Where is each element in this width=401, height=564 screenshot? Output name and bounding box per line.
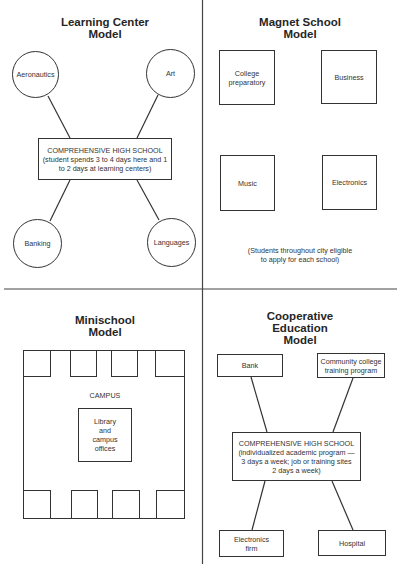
minischool-unit <box>71 490 98 519</box>
campus-label: CAMPUS <box>80 391 130 400</box>
minischool-unit <box>70 350 97 377</box>
library-campus-offices: Library and campus offices <box>78 408 132 462</box>
connector-languages <box>137 180 159 220</box>
magnet-eligibility-note: (Students throughout city eligible to ap… <box>235 246 365 264</box>
school-music: Music <box>220 155 275 211</box>
site-bank: Bank <box>217 354 283 377</box>
school-college-preparatory: College preparatory <box>219 50 275 105</box>
magnet-school-title: Magnet School Model <box>240 16 360 40</box>
school-models-diagram: Learning Center Model Aeronautics Art CO… <box>0 0 401 564</box>
minischool-unit <box>156 490 185 519</box>
hub-comprehensive-high-school-coop: COMPREHENSIVE HIGH SCHOOL (individualize… <box>232 432 361 481</box>
site-community-college: Community college training program <box>317 353 385 378</box>
connector-bank <box>251 377 267 432</box>
minischool-unit <box>23 350 51 377</box>
center-languages: Languages <box>147 218 196 267</box>
school-electronics: Electronics <box>322 155 377 210</box>
connector-art <box>137 95 158 138</box>
site-hospital: Hospital <box>318 530 386 556</box>
center-aeronautics: Aeronautics <box>12 51 59 98</box>
connector-community-college <box>333 378 353 432</box>
hub-comprehensive-high-school: COMPREHENSIVE HIGH SCHOOL (student spend… <box>38 138 172 180</box>
center-banking: Banking <box>13 219 62 268</box>
center-art: Art <box>146 49 195 98</box>
minischool-unit <box>112 490 140 519</box>
minischool-unit <box>23 490 51 519</box>
site-electronics-firm: Electronics firm <box>219 530 284 557</box>
cooperative-education-title: Cooperative Education Model <box>245 310 355 346</box>
connector-banking <box>50 180 70 221</box>
minischool-unit <box>111 350 138 377</box>
connector-aeronautics <box>48 96 70 138</box>
minischool-title: Minischool Model <box>50 314 160 338</box>
connector-electronics-firm <box>252 481 265 530</box>
learning-center-title: Learning Center Model <box>40 16 170 40</box>
minischool-unit <box>155 350 185 377</box>
connector-hospital <box>332 481 353 530</box>
school-business: Business <box>321 50 377 104</box>
